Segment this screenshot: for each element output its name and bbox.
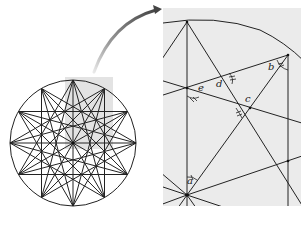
star-pattern-diagram: a b c d e (0, 0, 304, 226)
angle-label-b: b (268, 61, 274, 72)
angle-label-a: a (187, 175, 193, 186)
angle-label-c: c (245, 93, 251, 104)
inset-panel (163, 8, 301, 206)
star-chord (10, 143, 105, 198)
angle-label-e: e (198, 82, 204, 93)
star-chord (18, 80, 73, 175)
magnify-arrow (94, 5, 162, 72)
center-node (71, 141, 74, 144)
star-chord (42, 143, 137, 198)
star-chord (18, 112, 73, 207)
arrow-head-icon (153, 5, 162, 14)
angle-label-d: d (216, 78, 222, 89)
